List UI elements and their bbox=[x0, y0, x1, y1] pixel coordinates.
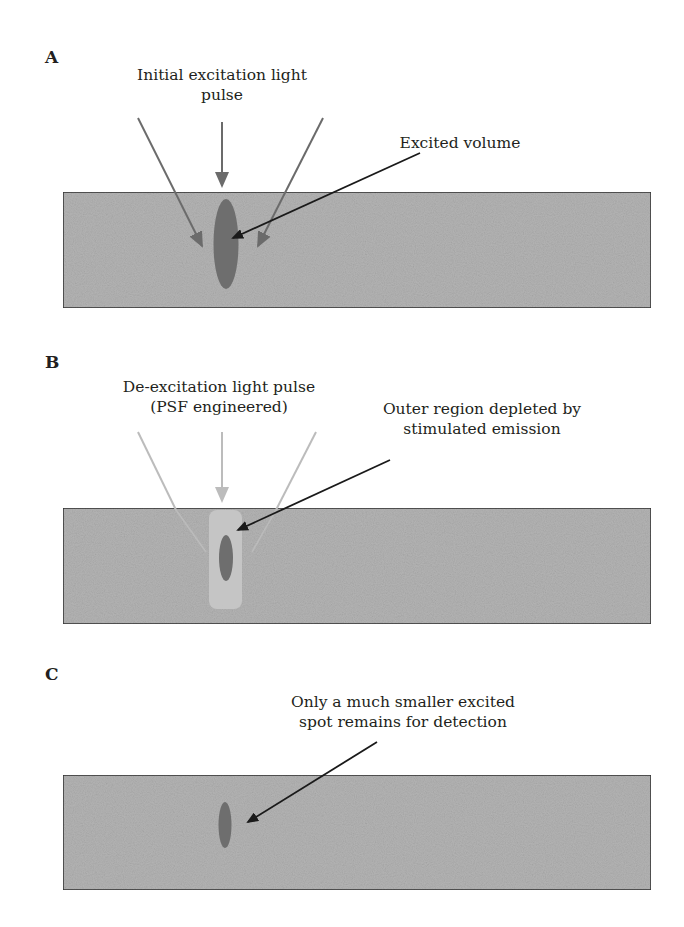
label-line: Initial excitation light bbox=[122, 65, 322, 85]
label-line: Excited volume bbox=[370, 133, 550, 153]
label-excitation-pulse: Initial excitation light pulse bbox=[122, 65, 322, 105]
sted-diagram bbox=[0, 0, 684, 927]
label-line: Only a much smaller excited bbox=[268, 692, 538, 712]
panel-letter-c: C bbox=[45, 664, 59, 684]
label-line: spot remains for detection bbox=[268, 712, 538, 732]
excited-volume-b bbox=[219, 535, 233, 581]
sample-band-a bbox=[63, 192, 651, 308]
label-de-excitation-pulse: De-excitation light pulse (PSF engineere… bbox=[104, 377, 334, 417]
label-line: Outer region depleted by bbox=[362, 399, 602, 419]
excited-spot-c bbox=[219, 802, 232, 848]
panel-letter-b: B bbox=[45, 352, 59, 372]
excited-volume-a bbox=[214, 199, 239, 289]
label-line: (PSF engineered) bbox=[104, 397, 334, 417]
label-line: stimulated emission bbox=[362, 419, 602, 439]
label-excited-volume: Excited volume bbox=[370, 133, 550, 153]
sample-band-b bbox=[63, 508, 651, 624]
de-excitation-arrow-right-icon bbox=[276, 432, 316, 510]
label-line: De-excitation light pulse bbox=[104, 377, 334, 397]
sample-band-c bbox=[63, 775, 651, 890]
panel-b bbox=[63, 432, 651, 624]
label-outer-region-depleted: Outer region depleted by stimulated emis… bbox=[362, 399, 602, 439]
panel-a bbox=[63, 118, 651, 308]
panel-letter-a: A bbox=[45, 47, 58, 67]
panel-c bbox=[63, 742, 651, 890]
de-excitation-arrow-left-icon bbox=[138, 432, 176, 510]
label-smaller-spot: Only a much smaller excited spot remains… bbox=[268, 692, 538, 732]
label-line: pulse bbox=[122, 85, 322, 105]
